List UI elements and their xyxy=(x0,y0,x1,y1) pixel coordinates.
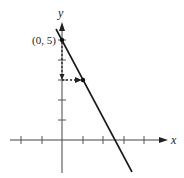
x-axis-arrow-icon xyxy=(159,137,168,143)
y-axis-label: y xyxy=(57,6,64,20)
point-label: (0, 5) xyxy=(32,34,56,47)
graph-line xyxy=(56,29,132,172)
rise-arrowhead-icon xyxy=(60,74,65,80)
point-0-5 xyxy=(60,38,64,42)
graph-canvas: x y (0, 5) xyxy=(0,0,184,178)
y-axis-arrow-icon xyxy=(59,22,65,31)
x-axis-label: x xyxy=(170,133,177,147)
point-1-3 xyxy=(81,78,85,82)
